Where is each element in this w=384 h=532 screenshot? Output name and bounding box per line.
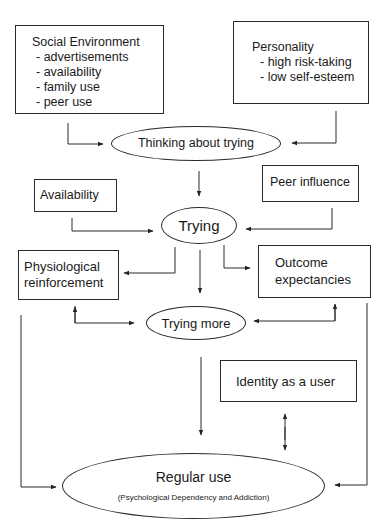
- trying-node: Trying: [161, 207, 237, 244]
- regular-use-label: Regular use: [156, 469, 232, 486]
- personality-box: Personality - high risk-taking - low sel…: [233, 21, 369, 104]
- physiological-reinforcement-box: Physiological reinforcement: [18, 250, 119, 300]
- social-environment-item: - availability: [36, 65, 101, 80]
- thinking-about-trying-label: Thinking about trying: [138, 136, 254, 151]
- social-environment-item: - peer use: [36, 95, 92, 110]
- social-environment-title: Social Environment: [32, 35, 140, 50]
- social-environment-item: - family use: [36, 80, 100, 95]
- personality-item: - high risk-taking: [260, 55, 352, 70]
- availability-box: Availability: [34, 179, 117, 212]
- availability-label: Availability: [40, 188, 99, 203]
- peer-influence-box: Peer influence: [262, 165, 359, 202]
- peer-influence-label: Peer influence: [270, 175, 350, 190]
- outcome-expectancies-line1: Outcome: [275, 255, 328, 270]
- regular-use-node: Regular use (Psychological Dependency an…: [62, 453, 325, 519]
- regular-use-sublabel: (Psychological Dependency and Addiction): [118, 492, 270, 503]
- trying-label: Trying: [178, 217, 219, 234]
- identity-as-user-label: Identity as a user: [236, 374, 335, 389]
- trying-more-node: Trying more: [146, 306, 246, 340]
- identity-as-user-box: Identity as a user: [220, 360, 357, 402]
- personality-item: - low self-esteem: [260, 70, 354, 85]
- physiological-reinforcement-line2: reinforcement: [24, 275, 103, 290]
- thinking-about-trying-node: Thinking about trying: [111, 126, 281, 161]
- physiological-reinforcement-line1: Physiological: [24, 259, 100, 274]
- social-environment-box: Social Environment - advertisements - av…: [15, 25, 164, 114]
- outcome-expectancies-box: Outcome expectancies: [258, 245, 371, 298]
- trying-more-label: Trying more: [162, 316, 231, 331]
- outcome-expectancies-line2: expectancies: [275, 272, 351, 287]
- personality-title: Personality: [252, 40, 314, 55]
- social-environment-item: - advertisements: [36, 50, 128, 65]
